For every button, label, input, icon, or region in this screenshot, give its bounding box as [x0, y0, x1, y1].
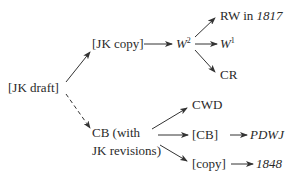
node-cwd: CWD: [192, 97, 222, 112]
cb-line2: JK revisions): [92, 143, 161, 158]
node-jk-copy: [JK copy]: [92, 36, 144, 51]
edge-cb-to-copy: [160, 145, 187, 161]
edge-w2-to-rw: [195, 18, 215, 37]
node-cr: CR: [220, 67, 237, 82]
node-1848: 1848: [256, 156, 282, 171]
node-pdwj: PDWJ: [250, 127, 284, 142]
node-w1: W1: [220, 36, 235, 51]
w1-sup: 1: [231, 36, 235, 45]
rw-year: 1817: [257, 8, 283, 23]
node-cb-with-revisions: CB (with JK revisions): [92, 125, 161, 158]
node-w2: W2: [176, 36, 191, 51]
cb-line1: CB (with: [92, 125, 161, 140]
node-cb-bracket: [CB]: [192, 127, 218, 142]
edge-draft-to-jkcopy: [66, 52, 90, 82]
edge-w2-to-cr: [195, 50, 215, 72]
node-jk-draft: [JK draft]: [8, 80, 59, 95]
node-copy: [copy]: [192, 156, 226, 171]
rw-prefix: RW in: [220, 8, 257, 23]
edge-draft-to-cb: [66, 94, 90, 128]
w2-base: W: [176, 36, 187, 51]
w1-base: W: [220, 36, 231, 51]
node-rw-1817: RW in 1817: [220, 8, 283, 23]
w2-sup: 2: [187, 36, 191, 45]
